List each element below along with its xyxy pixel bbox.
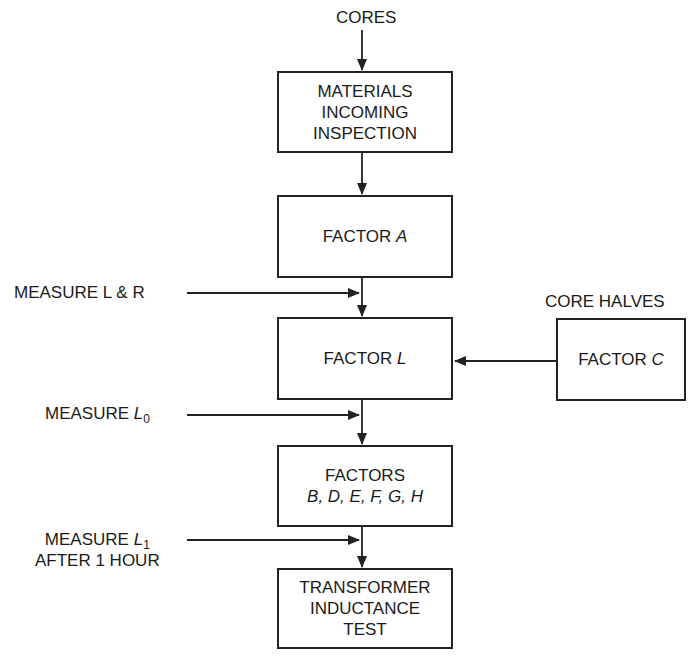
node-line-variables: B, D, E, F, G, H — [307, 486, 423, 507]
measure-l-and-r-label: MEASURE L & R — [14, 283, 145, 303]
node-label: FACTOR L — [324, 348, 407, 369]
measure-l1-line1: MEASURE L1 — [35, 529, 160, 550]
measure-variable: L — [134, 530, 143, 549]
node-factors-b-to-h: FACTORS B, D, E, F, G, H — [277, 445, 453, 527]
node-label: FACTOR A — [323, 226, 408, 247]
node-line: INCOMING — [322, 102, 409, 123]
measure-l1-line2: AFTER 1 HOUR — [35, 550, 160, 571]
measure-l1-label: MEASURE L1 AFTER 1 HOUR — [35, 529, 160, 571]
node-materials-incoming-inspection: MATERIALS INCOMING INSPECTION — [277, 71, 453, 153]
node-line: INDUCTANCE — [310, 598, 420, 619]
node-line: TRANSFORMER — [299, 577, 430, 598]
node-factor-a: FACTOR A — [277, 195, 453, 278]
measure-variable: L — [134, 404, 143, 423]
node-line: MATERIALS — [317, 81, 412, 102]
measure-l0-label: MEASURE L0 — [45, 404, 150, 424]
node-factor-l: FACTOR L — [277, 317, 453, 400]
node-line: FACTORS — [325, 465, 405, 486]
measure-prefix: MEASURE — [45, 530, 134, 549]
node-label-variable: A — [396, 227, 407, 246]
node-label: FACTOR C — [578, 349, 664, 370]
node-label-prefix: FACTOR — [324, 349, 397, 368]
node-label-variable: C — [652, 350, 664, 369]
input-core-halves-label: CORE HALVES — [545, 292, 665, 312]
measure-prefix: MEASURE — [45, 404, 134, 423]
node-line: INSPECTION — [313, 123, 417, 144]
node-label-prefix: FACTOR — [578, 350, 651, 369]
node-line: TEST — [343, 619, 386, 640]
node-label-variable: L — [397, 349, 406, 368]
node-label-prefix: FACTOR — [323, 227, 396, 246]
node-factor-c: FACTOR C — [556, 318, 686, 401]
measure-subscript: 0 — [143, 412, 150, 426]
input-cores-label: CORES — [336, 8, 396, 28]
node-transformer-inductance-test: TRANSFORMER INDUCTANCE TEST — [277, 568, 453, 649]
